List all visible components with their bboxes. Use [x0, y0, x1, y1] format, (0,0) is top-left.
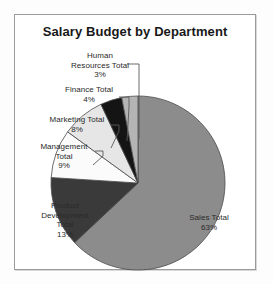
pie-label-marketing-total: Marketing Total 8% — [37, 115, 117, 134]
pie-label-product-development-total: Product Development Total 13% — [29, 201, 101, 239]
chart-frame: Salary Budget by Department — [14, 14, 256, 270]
pie-label-human-resources-total: Human Resources Total 3% — [59, 51, 141, 80]
pie-label-finance-total: Finance Total 4% — [51, 85, 127, 104]
pie-label-sales-total: Sales Total 63% — [173, 213, 245, 232]
pie-label-management-total: Management Total 9% — [29, 142, 99, 171]
plot-area: Human Resources Total 3% Finance Total 4… — [15, 15, 257, 271]
pie-chart-screenshot: Salary Budget by Department — [0, 0, 273, 284]
